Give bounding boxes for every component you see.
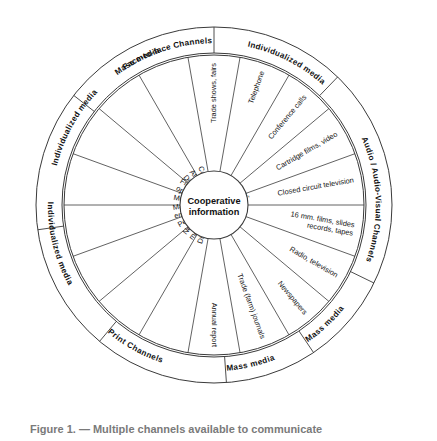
spoke-divider bbox=[99, 109, 188, 184]
spoke-divider bbox=[220, 238, 240, 352]
spoke-label: Trade (farm) journals bbox=[235, 272, 267, 340]
spoke-label-line: Closed circuit television bbox=[277, 175, 355, 197]
spoke-label-line: Telephone bbox=[246, 70, 266, 105]
spoke-label: Trade shows, fairs bbox=[209, 63, 218, 123]
outer-ring-label-text: Audio / Audio-Visual Channels bbox=[360, 135, 383, 263]
outer-ring-label: Audio / Audio-Visual Channels bbox=[360, 135, 383, 263]
figure-caption: Figure 1. — Multiple channels available … bbox=[30, 423, 322, 435]
spoke-divider bbox=[73, 154, 182, 194]
spoke-divider bbox=[220, 57, 240, 171]
spoke-label-line: Trade (farm) journals bbox=[235, 272, 267, 340]
outer-ring-divider bbox=[225, 357, 227, 383]
spoke-divider bbox=[99, 227, 188, 302]
spoke-label: Telephone bbox=[246, 70, 266, 105]
spoke-label-line: Cartridge films, video bbox=[274, 130, 339, 173]
spoke-divider bbox=[73, 217, 182, 257]
spoke-label: Radio, television bbox=[288, 245, 339, 280]
spoke-label: Conference calls bbox=[266, 93, 308, 141]
spoke-label-line: Newspapers bbox=[276, 279, 309, 316]
spoke-label: 16 mm. films, slidesrecords, tapes bbox=[289, 209, 356, 237]
spoke-label: Cartridge films, video bbox=[274, 130, 339, 173]
center-hub: Cooperative information bbox=[180, 171, 248, 239]
spoke-divider bbox=[139, 75, 197, 175]
cooperative-information-wheel-figure: Trade shows, fairsTelephoneConference ca… bbox=[0, 0, 437, 441]
spoke-label-line: Radio, television bbox=[288, 245, 339, 280]
spoke-divider bbox=[139, 234, 197, 334]
figure-caption-strip: Figure 1. — Multiple channels available … bbox=[0, 421, 437, 441]
outer-ring-divider bbox=[351, 272, 374, 283]
spoke-divider bbox=[188, 238, 208, 352]
wheel-diagram: Trade shows, fairsTelephoneConference ca… bbox=[0, 0, 437, 441]
spoke-label: Annual report bbox=[210, 303, 219, 347]
spoke-label: Closed circuit television bbox=[277, 175, 355, 197]
spoke-label-line: Conference calls bbox=[266, 93, 308, 141]
spoke-label-line: Trade shows, fairs bbox=[209, 63, 218, 123]
spoke-label-line: Annual report bbox=[210, 303, 219, 347]
spoke-divider bbox=[188, 57, 208, 171]
hub-label-line-2: information bbox=[189, 207, 240, 217]
spoke-label: Newspapers bbox=[276, 279, 309, 316]
hub-label-line-1: Cooperative bbox=[187, 196, 240, 206]
